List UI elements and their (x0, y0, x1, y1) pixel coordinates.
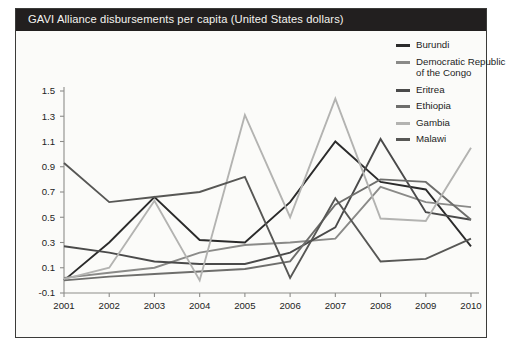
x-tick-label: 2004 (189, 300, 211, 311)
chart-figure: GAVI Alliance disbursements per capita (… (15, 8, 487, 338)
legend-item: Democratic Republic of the Congo (396, 56, 508, 79)
legend-item: Eritrea (396, 84, 508, 96)
legend-swatch-icon (396, 89, 410, 92)
y-tick-label: 0.3 (42, 237, 55, 248)
legend-item: Gambia (396, 117, 508, 129)
x-tick-label: 2001 (53, 300, 74, 311)
legend-swatch-icon (396, 61, 410, 64)
series-line-ethiopia (64, 179, 471, 280)
x-tick-label: 2008 (370, 300, 391, 311)
x-tick-label: 2005 (234, 300, 255, 311)
x-tick-label: 2009 (415, 300, 436, 311)
x-tick-label: 2007 (325, 300, 346, 311)
legend-item-label: Eritrea (416, 84, 445, 96)
x-tick-label: 2003 (144, 300, 165, 311)
chart-legend: BurundiDemocratic Republic of the CongoE… (396, 39, 508, 150)
legend-swatch-icon (396, 44, 410, 47)
chart-title-bar: GAVI Alliance disbursements per capita (… (16, 9, 486, 31)
legend-item-label: Gambia (416, 117, 450, 129)
page-title: GAVI Alliance disbursements per capita (… (28, 13, 344, 25)
legend-item: Burundi (396, 39, 508, 51)
x-tick-label: 2006 (279, 300, 300, 311)
legend-swatch-icon (396, 138, 410, 141)
legend-swatch-icon (396, 122, 410, 125)
legend-item-label: Ethiopia (416, 100, 451, 112)
y-tick-label: -0.1 (38, 287, 55, 298)
y-tick-label: 0.7 (42, 186, 55, 197)
y-tick-label: 1.3 (42, 111, 55, 122)
legend-item: Ethiopia (396, 100, 508, 112)
legend-item-label: Malawi (416, 133, 446, 145)
y-tick-label: 0.1 (42, 262, 55, 273)
legend-item: Malawi (396, 133, 508, 145)
y-tick-label: 0.9 (42, 161, 55, 172)
x-tick-label: 2010 (460, 300, 481, 311)
y-tick-label: 1.5 (42, 85, 55, 96)
legend-item-label: Democratic Republic of the Congo (416, 56, 508, 79)
y-tick-label: 1.1 (42, 136, 55, 147)
y-tick-label: 0.5 (42, 212, 55, 223)
x-tick-label: 2002 (99, 300, 120, 311)
legend-swatch-icon (396, 105, 410, 108)
legend-item-label: Burundi (416, 39, 449, 51)
